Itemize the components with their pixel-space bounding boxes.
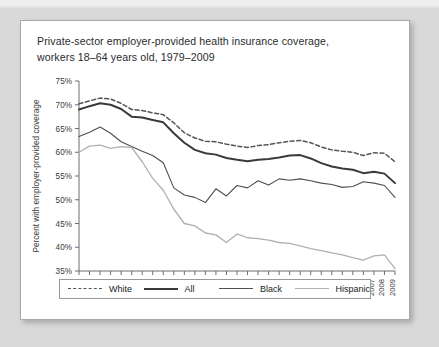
y-tick-label: 75%	[56, 77, 72, 86]
y-tick-label: 70%	[56, 101, 72, 110]
series-line-white	[79, 98, 395, 162]
y-tick-label: 60%	[56, 148, 72, 157]
legend-swatch-hispanic-icon	[295, 284, 329, 294]
line-chart: 75%70%65%60%55%50%45%40%35%Percent with …	[21, 21, 411, 321]
legend-label: All	[185, 284, 195, 294]
legend-swatch-all-icon	[144, 284, 178, 294]
chart-series	[79, 98, 395, 269]
y-axis-title: Percent with employer-provided coverage	[31, 99, 41, 252]
y-tick-label: 40%	[56, 243, 72, 252]
legend-item-white[interactable]: White	[60, 284, 136, 294]
y-tick-label: 35%	[56, 267, 72, 276]
y-tick-label: 45%	[56, 220, 72, 229]
legend-swatch-white-icon	[68, 284, 102, 294]
x-tick-label: 2008	[377, 279, 386, 296]
chart-legend: WhiteAllBlackHispanic	[59, 279, 371, 299]
legend-swatch-black-icon	[219, 284, 253, 294]
figure-card: Private-sector employer-provided health …	[20, 20, 410, 320]
screenshot-root: Private-sector employer-provided health …	[0, 0, 439, 347]
y-tick-label: 65%	[56, 125, 72, 134]
legend-item-all[interactable]: All	[136, 284, 212, 294]
page-top-strip	[0, 0, 439, 8]
series-line-all	[79, 103, 395, 183]
chart-labels: 75%70%65%60%55%50%45%40%35%Percent with …	[31, 77, 397, 296]
series-line-hispanic	[79, 145, 395, 269]
series-line-black	[79, 127, 395, 203]
legend-item-hispanic[interactable]: Hispanic	[287, 284, 371, 294]
legend-label: Black	[260, 284, 282, 294]
legend-label: White	[109, 284, 132, 294]
y-tick-label: 50%	[56, 196, 72, 205]
legend-label: Hispanic	[336, 284, 371, 294]
y-tick-label: 55%	[56, 172, 72, 181]
chart-plot-area: 75%70%65%60%55%50%45%40%35%Percent with …	[21, 21, 411, 321]
x-tick-label: 2009	[388, 279, 397, 296]
legend-item-black[interactable]: Black	[211, 284, 287, 294]
